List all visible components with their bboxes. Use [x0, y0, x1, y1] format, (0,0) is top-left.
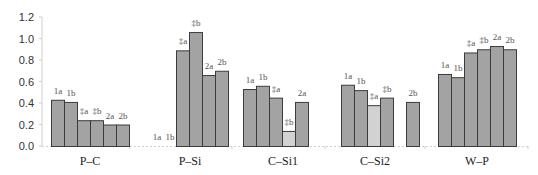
bar-label: ‡a	[467, 38, 476, 48]
bar-c-si2-5	[407, 102, 420, 146]
y-tick-label: 1.2	[19, 11, 34, 23]
bar-label: 2a	[493, 32, 502, 42]
bar-label: 1b	[67, 88, 77, 98]
bar-w-p-3	[478, 50, 491, 147]
bar-label: 1a	[153, 132, 162, 142]
bar-c-si1-3	[283, 131, 296, 146]
bar-c-si1-4	[296, 102, 309, 146]
group-labels: P–CP–SiC–Si1C–Si2W–P	[80, 154, 490, 168]
bar-label: 1b	[357, 76, 367, 86]
bar-label: 1a	[54, 86, 63, 96]
bar-w-p-4	[491, 47, 504, 147]
bar-c-si1-2	[270, 98, 283, 146]
bar-label: ‡a	[179, 36, 188, 46]
bar-label: 2b	[506, 35, 516, 45]
bar-p-si-2	[177, 51, 190, 147]
bar-w-p-0	[439, 74, 452, 146]
bar-p-c-0	[52, 100, 65, 146]
bar-label: 1b	[454, 63, 464, 73]
bar-c-si1-0	[244, 90, 257, 147]
x-group-label: C–Si1	[268, 154, 298, 168]
bar-label: 1b	[259, 72, 269, 82]
bar-label: 2a	[106, 111, 115, 121]
bar-c-si2-2	[368, 106, 381, 147]
x-group-label: W–P	[465, 154, 489, 168]
bar-label: 2b	[409, 88, 419, 98]
bar-p-si-4	[203, 76, 216, 147]
x-group-label: P–Si	[179, 154, 202, 168]
bar-label: 2b	[218, 57, 228, 67]
y-axis: 0.00.20.40.60.81.01.2	[19, 11, 42, 152]
bar-p-si-3	[190, 33, 203, 147]
bar-label: ‡a	[370, 91, 379, 101]
bar-p-c-5	[117, 125, 130, 147]
bar-label: ‡b	[192, 18, 202, 28]
bar-label: ‡b	[480, 35, 490, 45]
y-tick-label: 0.0	[19, 140, 34, 152]
bar-c-si2-1	[355, 91, 368, 147]
bar-label: 1b	[166, 132, 176, 142]
y-tick-label: 0.8	[19, 54, 34, 66]
bar-label: 2a	[205, 61, 214, 71]
bar-c-si2-0	[342, 85, 355, 146]
bar-c-si1-1	[257, 86, 270, 146]
bar-c-si2-3	[381, 98, 394, 146]
bar-label: 1a	[344, 71, 353, 81]
x-group-label: C–Si2	[360, 154, 390, 168]
bar-w-p-5	[504, 50, 517, 147]
bar-p-c-1	[65, 102, 78, 146]
y-tick-label: 0.6	[19, 76, 34, 88]
bar-label: ‡a	[272, 84, 281, 94]
bar-label: 2a	[298, 88, 307, 98]
bar-p-c-3	[91, 121, 104, 147]
bar-label: ‡a	[80, 106, 89, 116]
bar-p-c-2	[78, 121, 91, 147]
x-group-label: P–C	[80, 154, 101, 168]
bar-label: ‡b	[285, 117, 295, 127]
bar-p-si-5	[216, 71, 229, 146]
bar-label: ‡b	[383, 84, 393, 94]
bar-w-p-1	[452, 78, 465, 147]
bar-label: ‡b	[93, 106, 103, 116]
bars	[52, 33, 517, 147]
y-tick-label: 1.0	[19, 33, 34, 45]
bar-label: 1a	[441, 60, 450, 70]
y-tick-label: 0.2	[19, 119, 34, 131]
y-tick-label: 0.4	[19, 97, 34, 109]
bar-p-c-4	[104, 125, 117, 147]
bar-label: 2b	[119, 111, 129, 121]
bar-w-p-2	[465, 53, 478, 147]
bar-chart: 0.00.20.40.60.81.01.2 1a1b‡a‡b2a2b1a1b‡a…	[0, 0, 538, 175]
bar-label: 1a	[246, 75, 255, 85]
